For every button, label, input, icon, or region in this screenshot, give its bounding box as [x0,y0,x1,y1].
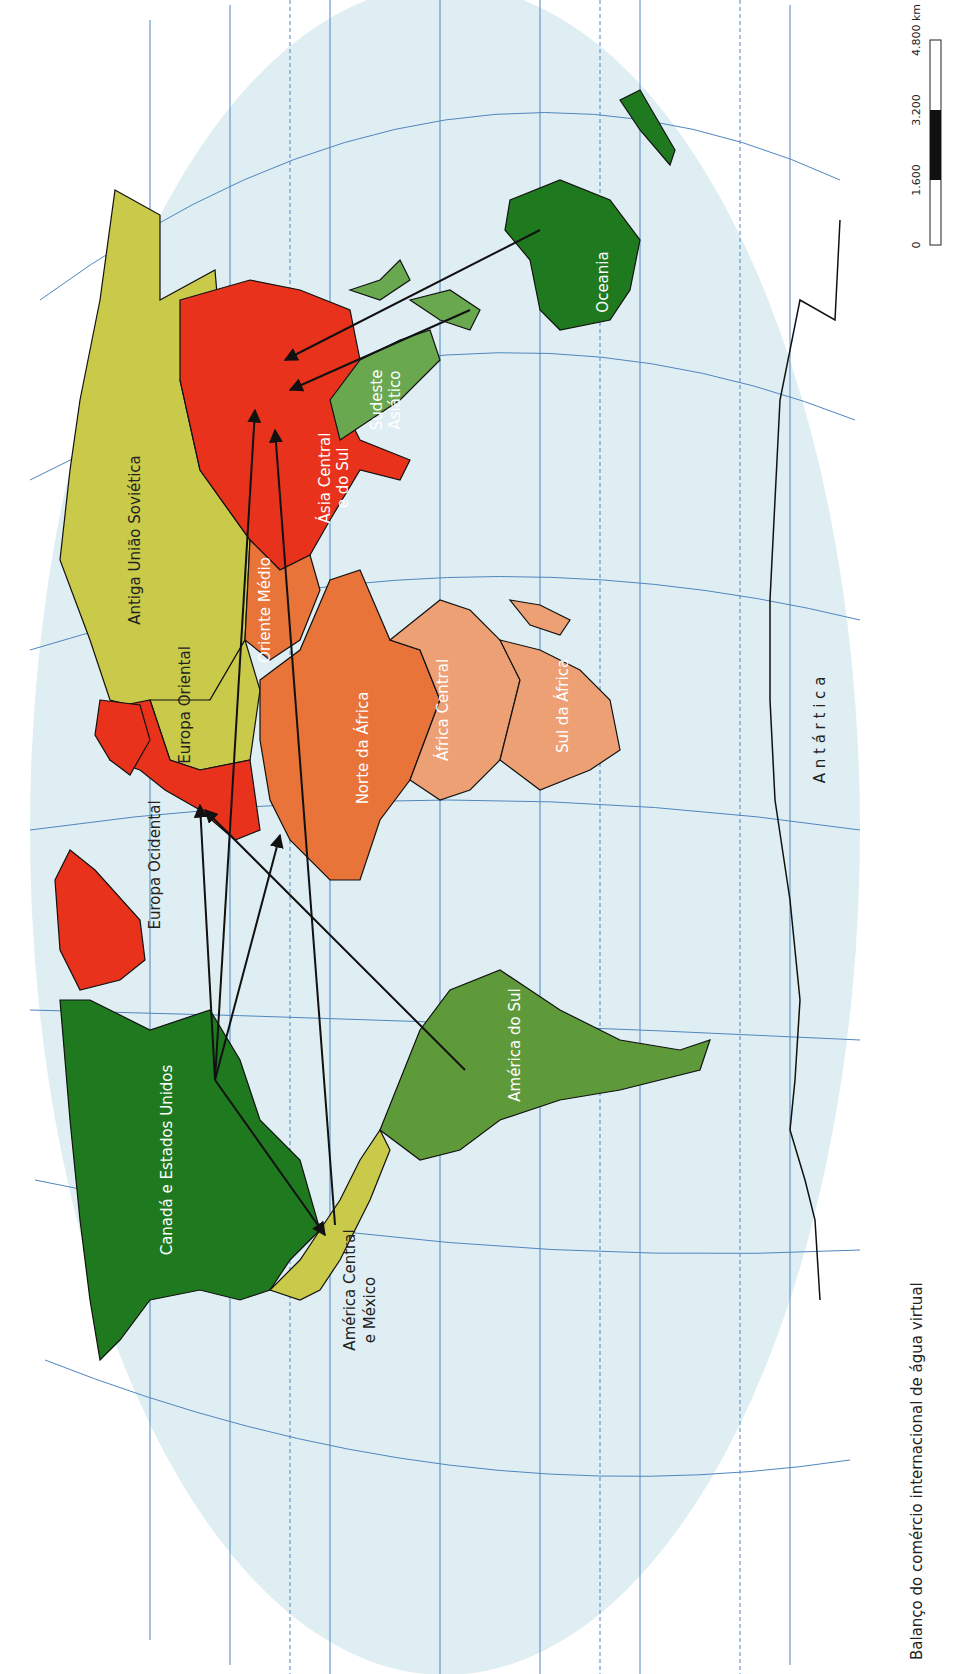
label-east-europe: Europa Oriental [176,646,194,764]
label-central-asia-1: Ásia Central [315,433,334,524]
label-se-asia-2: Asiático [386,371,404,430]
scale-tick-3200: 3.200 [910,94,923,126]
scale-tick-0: 0 [910,242,923,249]
label-canada-usa: Canadá e Estados Unidos [158,1064,176,1255]
label-central-america-2: e México [361,1277,379,1343]
label-antarctica: A n t á r t i c a [811,677,829,784]
scale-tick-1600: 1.600 [910,164,923,196]
label-west-europe: Europa Ocidental [146,800,164,929]
label-se-asia-1: Sudeste [368,370,386,431]
scale-bar: 0 1.600 3.200 4.800 km [910,4,941,249]
label-central-america-1: América Central [341,1229,359,1350]
label-south-africa: Sul da África [553,659,572,753]
label-central-africa: África Central [433,659,452,761]
label-north-africa: Norte da África [353,692,372,805]
map-title: Balanço do comércio internacional de águ… [908,1282,926,1660]
scale-tick-4800: 4.800 km [910,4,923,56]
label-middle-east: Oriente Médio [256,557,274,663]
label-ussr: Antiga União Soviética [126,455,144,625]
label-south-america: América do Sul [506,988,524,1101]
world-map: Antiga União Soviética Europa Oriental E… [0,0,960,1674]
label-central-asia-2: e do Sul [334,448,352,509]
label-oceania: Oceania [594,251,612,312]
